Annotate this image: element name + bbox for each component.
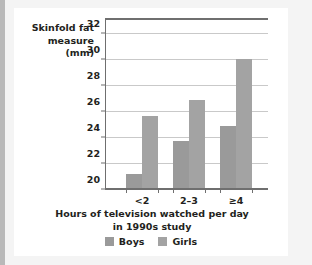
gridline-32 [105, 33, 268, 34]
y-axis-title: Skinfold fat measure (mm) [16, 22, 94, 60]
chart-legend: Boys Girls [14, 236, 288, 247]
x-tick-mark-2 [173, 190, 174, 193]
y-tick-label-28: 28 [87, 70, 100, 81]
x-category-label-ge4: ≥4 [229, 195, 244, 206]
bar-girls-ge4 [236, 59, 252, 190]
legend-label-girls: Girls [172, 236, 197, 247]
x-tick-mark-0 [126, 190, 127, 193]
y-tick-label-26: 26 [87, 96, 100, 107]
y-tick-label-24: 24 [87, 122, 100, 133]
y-axis-title-line2: measure (mm) [16, 35, 94, 60]
x-category-label-2to3: 2–3 [180, 195, 198, 206]
x-tick-mark-5 [252, 190, 253, 193]
bar-chart: Skinfold fat measure (mm) [14, 8, 288, 256]
figure-card: Skinfold fat measure (mm) [14, 8, 288, 256]
page-background: Skinfold fat measure (mm) [0, 0, 312, 265]
x-tick-mark-4 [220, 190, 221, 193]
x-axis-title: Hours of television watched per day in 1… [42, 208, 262, 233]
x-tick-mark-3 [205, 190, 206, 193]
x-axis-line [105, 188, 268, 190]
bar-girls-lt2 [142, 116, 158, 190]
legend-label-boys: Boys [119, 236, 145, 247]
x-axis-title-line2: in 1990s study [42, 221, 262, 234]
x-axis-title-line1: Hours of television watched per day [55, 208, 249, 219]
bar-boys-ge4 [220, 126, 236, 190]
legend-swatch-boys-icon [105, 237, 114, 246]
y-axis-title-line1: Skinfold fat [32, 22, 94, 33]
y-tick-label-30: 30 [87, 44, 100, 55]
y-tick-label-20: 20 [87, 174, 100, 185]
x-category-label-lt2: <2 [135, 195, 150, 206]
legend-item-boys: Boys [105, 236, 145, 247]
page-left-rail [0, 0, 5, 265]
x-tick-mark-1 [158, 190, 159, 193]
bar-boys-2to3 [173, 141, 189, 190]
y-tick-label-22: 22 [87, 148, 100, 159]
bar-girls-2to3 [189, 100, 205, 190]
legend-item-girls: Girls [158, 236, 197, 247]
legend-swatch-girls-icon [158, 237, 167, 246]
plot-area: 20 22 24 26 28 30 32 [105, 18, 268, 190]
y-axis-line [105, 20, 106, 190]
y-tick-label-32: 32 [87, 18, 100, 29]
